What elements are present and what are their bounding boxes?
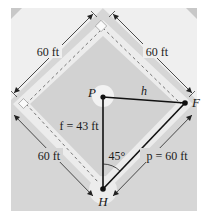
label-f: F (191, 95, 201, 110)
label-home: H (97, 194, 108, 209)
label-p: P (87, 85, 96, 100)
point-pitcher (100, 94, 105, 99)
baseball-diamond-figure: 60 ft 60 ft 60 ft P h F H f = (0, 0, 205, 220)
dimension-label-top-right: 60 ft (146, 45, 169, 59)
point-home (100, 186, 106, 192)
dimension-label-top-left: 60 ft (37, 45, 60, 59)
label-angle: 45° (109, 149, 126, 163)
point-first-base (182, 100, 188, 106)
label-h: h (141, 84, 147, 98)
label-f-length: f = 43 ft (59, 119, 99, 133)
label-p-length: p = 60 ft (146, 149, 188, 163)
dimension-label-bottom-left: 60 ft (38, 149, 61, 163)
diamond-diagram: 60 ft 60 ft 60 ft P h F H f = (0, 0, 205, 220)
